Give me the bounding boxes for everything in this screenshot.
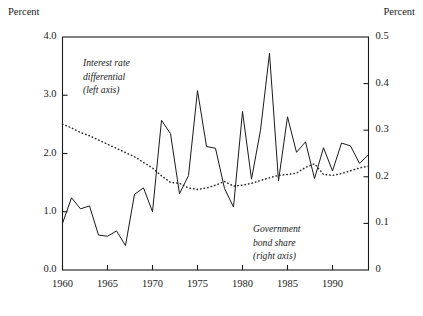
plot-area: [0, 0, 423, 316]
axis-tickmarks: [63, 84, 369, 270]
series-line-interest-rate-differential: [63, 53, 369, 245]
series-line-government-bond-share: [63, 124, 369, 189]
chart-figure: Percent Percent 4.03.02.01.00.0 0.50.40.…: [0, 0, 423, 316]
plot-frame: [63, 37, 369, 270]
